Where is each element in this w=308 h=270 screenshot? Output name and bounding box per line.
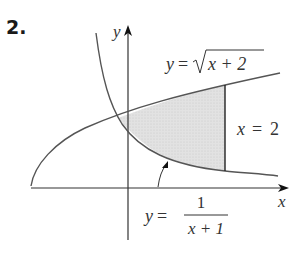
x-axis-label: x <box>277 192 286 211</box>
sqrt-label-radicand: x + 2 <box>207 54 246 74</box>
reciprocal-label-denominator: x + 1 <box>187 219 224 238</box>
reciprocal-label-eq: = <box>157 206 167 226</box>
sqrt-label-lhs: y <box>164 54 174 74</box>
reciprocal-label-numerator: 1 <box>197 193 206 212</box>
region-diagram: y x y = x + 2 x = 2 y = 1 x + 1 <box>0 0 308 270</box>
y-axis-label: y <box>111 22 121 41</box>
sqrt-label-eq: = <box>178 54 188 74</box>
pointer-arrow-icon <box>162 161 168 168</box>
reciprocal-label-lhs: y <box>143 206 153 226</box>
boundary-label-val: 2 <box>270 119 279 139</box>
boundary-label-eq: = <box>252 119 262 139</box>
boundary-label-var: x <box>236 119 245 139</box>
pointer-line <box>158 165 166 187</box>
